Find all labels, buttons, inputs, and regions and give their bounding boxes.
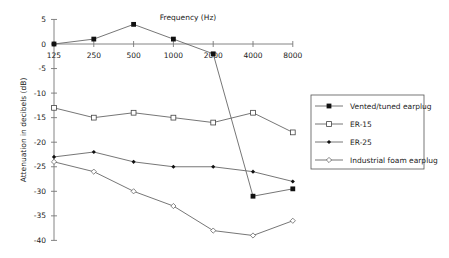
open-diamond-marker — [250, 233, 255, 238]
open-square-marker — [211, 120, 216, 125]
open-diamond-marker — [290, 218, 295, 223]
y-tick-label: -40 — [34, 236, 46, 245]
open-square-marker — [131, 110, 136, 115]
filled-square-marker — [171, 37, 176, 42]
open-square-marker — [52, 105, 57, 110]
y-axis-title: Attenuation in decibels (dB) — [19, 78, 28, 183]
filled-square-marker — [290, 186, 295, 191]
open-square-marker — [171, 115, 176, 120]
y-tick-label: -15 — [34, 113, 46, 122]
open-square-marker — [91, 115, 96, 120]
filled-diamond-marker — [291, 179, 295, 183]
x-axis: 1252505001000200040008000 — [47, 41, 303, 60]
x-tick-label: 8000 — [283, 51, 302, 60]
filled-square-marker — [251, 194, 256, 199]
filled-square-marker — [52, 42, 57, 47]
legend-label: ER-15 — [350, 120, 372, 129]
filled-diamond-marker — [52, 155, 56, 159]
series-vented-tuned-earplug — [52, 22, 296, 199]
legend-label: ER-25 — [350, 138, 372, 147]
series-industrial-foam-earplug — [51, 159, 295, 238]
open-square-marker — [251, 110, 256, 115]
open-diamond-marker — [91, 169, 96, 174]
x-tick-label: 500 — [126, 51, 141, 60]
y-tick-label: 5 — [41, 15, 46, 24]
y-tick-label: -10 — [34, 89, 46, 98]
filled-square-marker — [327, 104, 332, 109]
legend-label: Industrial foam earplug — [350, 156, 438, 165]
filled-square-marker — [91, 37, 96, 42]
legend: Vented/tuned earplugER-15ER-25Industrial… — [311, 95, 438, 169]
attenuation-chart: 50-5-10-15-20-25-30-35-40 12525050010002… — [0, 0, 449, 258]
y-tick-label: -20 — [34, 138, 46, 147]
x-tick-label: 125 — [47, 51, 62, 60]
x-axis-title: Frequency (Hz) — [160, 13, 217, 22]
y-tick-label: -25 — [34, 162, 46, 171]
filled-square-marker — [211, 51, 216, 56]
open-diamond-marker — [131, 189, 136, 194]
open-square-marker — [290, 130, 295, 135]
series-er-15 — [52, 105, 296, 134]
open-diamond-marker — [211, 228, 216, 233]
legend-label: Vented/tuned earplug — [350, 102, 432, 111]
y-axis: 50-5-10-15-20-25-30-35-40 — [34, 15, 57, 245]
filled-diamond-marker — [211, 165, 215, 169]
series-er-25 — [52, 150, 295, 184]
filled-diamond-marker — [251, 170, 255, 174]
filled-square-marker — [131, 22, 136, 27]
x-tick-label: 4000 — [243, 51, 262, 60]
filled-diamond-marker — [92, 150, 96, 154]
open-diamond-marker — [51, 159, 56, 164]
filled-diamond-marker — [171, 165, 175, 169]
y-tick-label: -5 — [39, 64, 47, 73]
open-square-marker — [327, 122, 332, 127]
y-tick-label: 0 — [41, 40, 46, 49]
open-diamond-marker — [171, 203, 176, 208]
x-tick-label: 250 — [87, 51, 102, 60]
filled-diamond-marker — [132, 160, 136, 164]
y-tick-label: -30 — [34, 187, 46, 196]
y-tick-label: -35 — [34, 211, 46, 220]
x-tick-label: 1000 — [164, 51, 183, 60]
